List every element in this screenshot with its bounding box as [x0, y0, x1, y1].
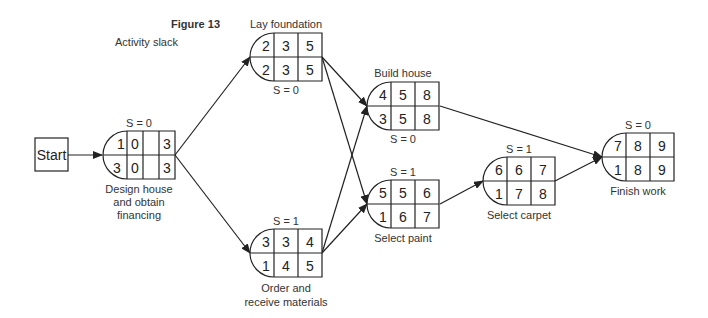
node-lay-foundation: 2 3 5 2 3 5 Lay foundation S = 0: [250, 18, 322, 96]
slack-label: S = 1: [506, 143, 532, 155]
slack-cell: 1: [495, 186, 503, 202]
latest-finish: 7: [423, 209, 431, 225]
earliest-start: 4: [379, 87, 387, 103]
earliest-start: 7: [614, 138, 622, 154]
node-design-house: 1 0 3 3 0 3 S = 0 Design house and obtai…: [103, 117, 175, 221]
edge-materials-build: [322, 106, 367, 253]
duration: 0: [131, 136, 139, 152]
slack-cell: 1: [262, 258, 270, 274]
slack-label: S = 1: [390, 166, 416, 178]
start-label: Start: [37, 147, 67, 163]
node-build-house: 4 5 8 3 5 8 Build house S = 0: [367, 67, 439, 145]
edge-design-materials: [175, 155, 250, 253]
earliest-start: 1: [117, 136, 125, 152]
node-finish-work: 7 8 9 1 8 9 S = 0 Finish work: [602, 119, 674, 197]
earliest-finish: 9: [658, 138, 666, 154]
duration: 3: [282, 38, 290, 54]
edge-design-foundation: [175, 57, 250, 155]
activity-label: Finish work: [610, 185, 666, 197]
slack-cell: 1: [379, 209, 387, 225]
activity-label: receive materials: [244, 296, 328, 308]
slack-cell: 1: [614, 162, 622, 178]
slack-cell: 0: [131, 160, 139, 176]
duration: 8: [634, 138, 642, 154]
slack-label: S = 0: [390, 133, 416, 145]
node-select-carpet: 6 6 7 1 7 8 S = 1 Select carpet: [483, 143, 555, 221]
slack-label: S = 0: [273, 84, 299, 96]
activity-label: Select carpet: [487, 209, 551, 221]
latest-finish: 5: [306, 62, 314, 78]
latest-start: 4: [282, 258, 290, 274]
earliest-start: 2: [262, 38, 270, 54]
duration: 5: [399, 185, 407, 201]
duration: 3: [282, 234, 290, 250]
slack-label: S = 1: [273, 215, 299, 227]
earliest-finish: 7: [539, 162, 547, 178]
edge-materials-paint: [322, 204, 367, 253]
slack-label: S = 0: [126, 117, 152, 129]
activity-label: Lay foundation: [250, 18, 322, 30]
earliest-start: 3: [262, 234, 270, 250]
start-node: Start: [35, 138, 68, 171]
latest-finish: 5: [306, 258, 314, 274]
latest-start: 8: [634, 162, 642, 178]
latest-finish: 3: [163, 160, 171, 176]
latest-start: 3: [113, 160, 121, 176]
earliest-start: 6: [495, 162, 503, 178]
earliest-finish: 6: [423, 185, 431, 201]
earliest-finish: 4: [306, 234, 314, 250]
duration: 5: [399, 87, 407, 103]
edge-foundation-paint: [322, 57, 367, 204]
node-select-paint: 5 5 6 1 6 7 S = 1 Select paint: [367, 166, 439, 244]
node-order-materials: 3 3 4 1 4 5 S = 1 Order and receive mate…: [244, 215, 328, 308]
latest-finish: 8: [423, 111, 431, 127]
activity-label: financing: [117, 209, 161, 221]
latest-start: 7: [515, 186, 523, 202]
edge-carpet-finish: [555, 157, 602, 181]
figure-title: Figure 13: [171, 18, 220, 30]
activity-label: Select paint: [374, 232, 431, 244]
slack-cell: 3: [379, 111, 387, 127]
activity-label: and obtain: [113, 196, 164, 208]
earliest-finish: 8: [423, 87, 431, 103]
latest-start: 3: [282, 62, 290, 78]
latest-finish: 9: [658, 162, 666, 178]
earliest-finish: 5: [306, 38, 314, 54]
edge-paint-carpet: [440, 181, 483, 204]
earliest-start: 5: [379, 185, 387, 201]
latest-start: 6: [399, 209, 407, 225]
edge-foundation-build: [322, 57, 367, 106]
slack-cell: 2: [262, 62, 270, 78]
earliest-finish: 3: [163, 136, 171, 152]
slack-label: S = 0: [625, 119, 651, 131]
latest-start: 5: [399, 111, 407, 127]
activity-label: Order and: [261, 282, 311, 294]
activity-network-diagram: Figure 13 Activity slack Start 1 0 3 3 0…: [0, 0, 708, 318]
figure-subtitle: Activity slack: [115, 36, 178, 48]
duration: 6: [515, 162, 523, 178]
latest-finish: 8: [539, 186, 547, 202]
activity-label: Build house: [374, 67, 432, 79]
activity-label: Design house: [105, 183, 172, 195]
